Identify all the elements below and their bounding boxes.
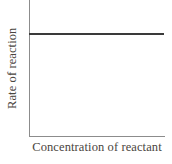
rate-vs-concentration-chart: Rate of reaction Concentration of reacta… <box>0 0 172 164</box>
plot-area <box>29 0 165 137</box>
y-axis-label-text: Rate of reaction <box>7 28 20 109</box>
x-axis-label: Concentration of reactant <box>22 141 172 154</box>
series-line-rate <box>29 33 164 35</box>
x-axis-line <box>29 136 165 137</box>
y-axis-line <box>29 0 30 137</box>
y-axis-label: Rate of reaction <box>0 0 26 137</box>
